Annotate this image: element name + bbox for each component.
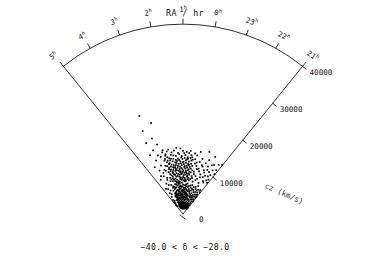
galaxy-point [203, 169, 205, 171]
galaxy-point [206, 169, 208, 171]
galaxy-point [165, 183, 167, 185]
galaxy-point [171, 178, 173, 180]
galaxy-point [171, 152, 173, 154]
galaxy-point [176, 160, 178, 162]
galaxy-point [173, 150, 175, 152]
galaxy-point [165, 165, 167, 167]
galaxy-point [189, 204, 191, 206]
galaxy-point [172, 169, 174, 171]
galaxy-point [179, 181, 181, 183]
galaxy-point [168, 171, 170, 173]
ra-tick-23h [246, 30, 248, 35]
galaxy-point [196, 155, 198, 157]
galaxy-point [192, 184, 194, 186]
galaxy-point [139, 115, 141, 117]
ra-tick-22h [276, 44, 278, 48]
galaxy-point [171, 164, 173, 166]
galaxy-point [167, 188, 169, 190]
galaxy-point [168, 157, 170, 159]
galaxy-point [166, 151, 168, 153]
ra-label-22h: 22h [276, 29, 291, 43]
galaxy-point [192, 201, 194, 203]
galaxy-point [184, 179, 186, 181]
galaxy-point [196, 178, 198, 180]
galaxy-point [208, 159, 210, 161]
galaxy-point [169, 162, 171, 164]
galaxy-point [180, 170, 182, 172]
galaxy-point [178, 153, 180, 155]
galaxy-point [184, 199, 186, 201]
galaxy-point [166, 179, 168, 181]
galaxy-point [179, 148, 181, 150]
galaxy-point [192, 159, 194, 161]
galaxy-point [182, 150, 184, 152]
galaxy-point [163, 176, 165, 178]
galaxy-point [172, 180, 174, 182]
galaxy-point [176, 169, 178, 171]
galaxy-point [208, 171, 210, 173]
galaxy-point [187, 158, 189, 160]
galaxy-point [189, 166, 191, 168]
ra-label-2h: 2h [144, 7, 153, 18]
galaxy-point [202, 176, 204, 178]
galaxy-point [180, 198, 182, 200]
galaxy-point [155, 160, 157, 162]
ra-label-5h: 5h [47, 49, 59, 62]
galaxy-point [167, 160, 169, 162]
galaxy-point [178, 191, 180, 193]
galaxy-point [177, 175, 179, 177]
galaxy-point [186, 167, 188, 169]
ra-label-3h: 3h [109, 15, 119, 27]
outer-arc [63, 24, 302, 66]
galaxy-point [192, 181, 194, 183]
galaxy-point [165, 188, 167, 190]
galaxy-point [190, 163, 192, 165]
galaxy-point [188, 203, 190, 205]
ra-tick-3h [118, 30, 120, 35]
galaxy-point [187, 194, 189, 196]
galaxy-point [204, 175, 206, 177]
galaxy-point [160, 179, 162, 181]
galaxy-point [188, 200, 190, 202]
galaxy-point [172, 155, 174, 157]
galaxy-point [179, 160, 181, 162]
galaxy-point [182, 176, 184, 178]
galaxy-point [175, 147, 177, 149]
galaxy-point [191, 165, 193, 167]
galaxy-point [179, 174, 181, 176]
cz-tick-20000 [243, 140, 246, 143]
galaxy-point [180, 188, 182, 190]
galaxy-point [181, 182, 183, 184]
galaxy-point [176, 162, 178, 164]
galaxy-point [175, 202, 177, 204]
galaxy-point [171, 196, 173, 198]
galaxy-point [190, 195, 192, 197]
galaxy-point [170, 166, 172, 168]
galaxy-point [178, 183, 180, 185]
galaxy-point [142, 130, 144, 132]
galaxy-point [188, 168, 190, 170]
galaxy-point [205, 162, 207, 164]
galaxy-point [212, 170, 214, 172]
galaxy-point [185, 154, 187, 156]
galaxy-point [164, 160, 166, 162]
galaxy-point [183, 163, 185, 165]
galaxy-point [186, 165, 188, 167]
galaxy-point [203, 172, 205, 174]
galaxy-point [167, 156, 169, 158]
galaxy-point [172, 199, 174, 201]
ra-label-23h: 23h [245, 15, 259, 28]
galaxy-point [169, 177, 171, 179]
galaxy-point [203, 182, 205, 184]
galaxy-point [172, 160, 174, 162]
galaxy-point [170, 169, 172, 171]
galaxy-point [176, 172, 178, 174]
cz-label-10000: 10000 [220, 179, 243, 188]
galaxy-point [169, 160, 171, 162]
galaxy-point [178, 195, 180, 197]
galaxy-point [190, 200, 192, 202]
galaxy-point [150, 122, 152, 124]
galaxy-point [175, 164, 177, 166]
ra-tick-2h [150, 22, 151, 27]
cz-tick-40000 [303, 66, 307, 69]
